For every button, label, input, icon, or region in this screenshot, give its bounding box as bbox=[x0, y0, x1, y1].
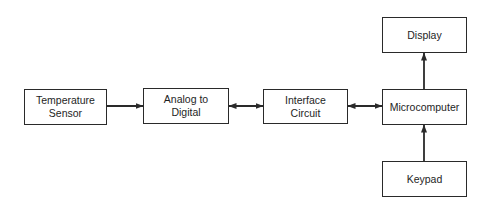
microcomputer-block: Microcomputer bbox=[382, 89, 467, 125]
microcomputer-label: Microcomputer bbox=[390, 101, 459, 114]
display-block: Display bbox=[382, 17, 467, 53]
keypad-label: Keypad bbox=[407, 173, 443, 186]
interface-circuit-block: Interface Circuit bbox=[263, 89, 348, 124]
display-label: Display bbox=[407, 29, 441, 42]
analog-to-digital-block: Analog to Digital bbox=[143, 88, 229, 124]
block-diagram: Temperature Sensor Analog to Digital Int… bbox=[0, 0, 492, 209]
keypad-block: Keypad bbox=[382, 161, 467, 197]
temperature-sensor-block: Temperature Sensor bbox=[24, 89, 107, 125]
analog-to-digital-label: Analog to Digital bbox=[164, 93, 208, 119]
temperature-sensor-label: Temperature Sensor bbox=[36, 94, 95, 120]
interface-circuit-label: Interface Circuit bbox=[285, 94, 326, 120]
